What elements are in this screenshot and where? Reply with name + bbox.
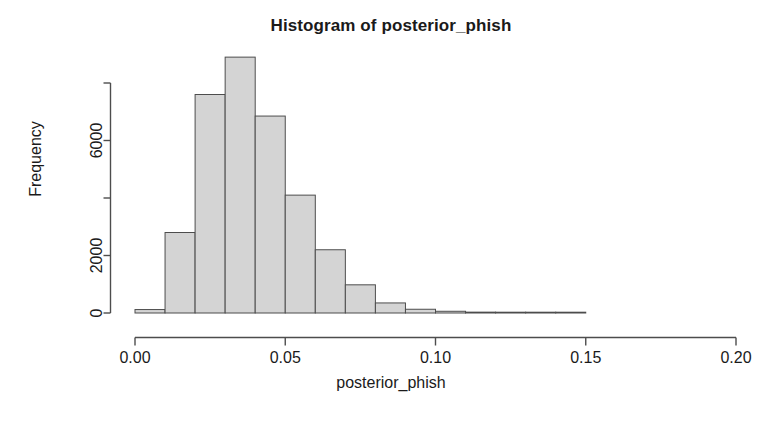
x-tick-label: 0.00 — [119, 349, 150, 366]
histogram-plot: Histogram of posterior_phish Frequency 0… — [0, 0, 782, 421]
x-tick-label: 0.15 — [570, 349, 601, 366]
x-tick-label: 0.20 — [720, 349, 751, 366]
x-tick-label: 0.10 — [420, 349, 451, 366]
histogram-bar — [285, 195, 315, 313]
histogram-bar — [526, 312, 556, 313]
x-tick-label: 0.05 — [270, 349, 301, 366]
histogram-bar — [165, 233, 195, 314]
histogram-bar — [255, 116, 285, 313]
y-tick-label: 0 — [88, 308, 105, 317]
y-tick-label: 2000 — [88, 238, 105, 274]
histogram-bar — [405, 309, 435, 313]
histogram-bar — [375, 303, 405, 313]
histogram-bar — [556, 312, 586, 313]
histogram-bar — [345, 285, 375, 313]
histogram-bar — [135, 310, 165, 313]
histogram-bars — [135, 57, 586, 313]
histogram-bar — [315, 250, 345, 313]
histogram-bar — [466, 312, 496, 313]
histogram-bar — [195, 95, 225, 314]
histogram-bar — [436, 311, 466, 313]
histogram-bar — [225, 57, 255, 313]
x-axis-label: posterior_phish — [0, 374, 782, 392]
histogram-bar — [496, 312, 526, 313]
plot-canvas: 0200060000.000.050.100.150.20 — [0, 0, 782, 421]
y-tick-label: 6000 — [88, 123, 105, 159]
